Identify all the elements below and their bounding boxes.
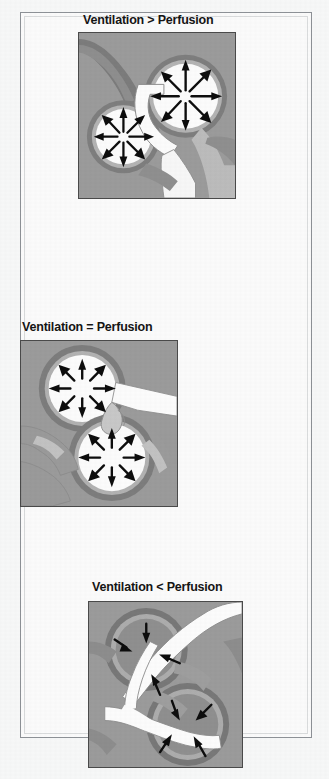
panel-3-artwork (89, 602, 242, 767)
figure-page: Ventilation > Perfusion (0, 0, 329, 779)
panel-ventilation-less-than-perfusion[interactable] (88, 601, 243, 768)
panel-1-artwork (79, 33, 235, 198)
panel-1-title: Ventilation > Perfusion (83, 13, 214, 27)
panel-3-title: Ventilation < Perfusion (92, 580, 223, 594)
panel-ventilation-greater-than-perfusion[interactable] (78, 32, 236, 199)
panel-2-title: Ventilation = Perfusion (22, 320, 153, 334)
panel-ventilation-equals-perfusion[interactable] (20, 340, 178, 507)
panel-2-artwork (21, 341, 177, 506)
